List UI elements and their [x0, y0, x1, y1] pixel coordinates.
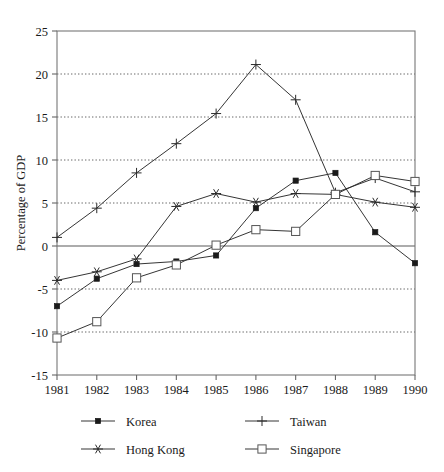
x-tick-label: 1984	[164, 383, 190, 397]
y-tick-label: -15	[31, 369, 48, 383]
data-point	[132, 274, 140, 282]
x-tick-label: 1988	[323, 383, 348, 397]
data-point	[94, 276, 99, 281]
x-tick-label: 1981	[45, 383, 70, 397]
y-tick-label: 5	[42, 197, 48, 211]
chart-container: 2520151050-5-10-15 198119821983198419851…	[0, 0, 444, 472]
data-point	[54, 304, 59, 309]
y-tick-label: 20	[36, 68, 49, 82]
y-tick-label: -10	[31, 326, 48, 340]
data-point	[252, 226, 260, 234]
data-point	[253, 206, 258, 211]
chart-background	[0, 0, 444, 472]
line-chart: 2520151050-5-10-15 198119821983198419851…	[0, 0, 444, 472]
y-tick-label: 15	[36, 111, 49, 125]
x-tick-label: 1983	[124, 383, 149, 397]
data-point	[214, 253, 219, 258]
y-tick-label: 25	[36, 25, 49, 39]
legend-label: Korea	[126, 415, 157, 429]
data-point	[412, 261, 417, 266]
data-point	[172, 261, 180, 269]
data-point	[331, 190, 339, 198]
x-tick-label: 1990	[403, 383, 428, 397]
legend-marker-filled-square	[95, 418, 100, 423]
data-point	[293, 178, 298, 183]
data-point	[53, 334, 61, 342]
y-axis-title: Percentage of GDP	[14, 155, 28, 252]
x-tick-label: 1985	[204, 383, 229, 397]
legend-label: Singapore	[290, 443, 341, 457]
data-point	[411, 177, 419, 185]
data-point	[373, 230, 378, 235]
y-tick-label: -5	[38, 283, 48, 297]
y-tick-label: 0	[42, 240, 48, 254]
x-tick-label: 1982	[84, 383, 109, 397]
data-point	[212, 241, 220, 249]
data-point	[93, 318, 101, 326]
data-point	[333, 170, 338, 175]
legend-label: Hong Kong	[126, 443, 185, 457]
x-tick-label: 1989	[363, 383, 388, 397]
legend-label: Taiwan	[290, 415, 327, 429]
data-point	[292, 227, 300, 235]
x-tick-label: 1986	[243, 383, 268, 397]
data-point	[371, 171, 379, 179]
y-tick-label: 10	[36, 154, 49, 168]
x-tick-label: 1987	[283, 383, 308, 397]
legend-marker-open-square	[258, 445, 266, 453]
